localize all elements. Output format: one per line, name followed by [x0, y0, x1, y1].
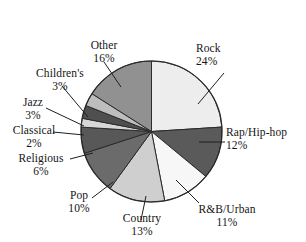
pie-slice-rock: [152, 61, 222, 132]
slice-label-religious: Religious 6%: [10, 152, 72, 178]
slice-label-country-value: 13%: [111, 225, 173, 238]
slice-label-rock: Rock 24%: [196, 42, 221, 68]
pie-slice-group: [81, 61, 222, 202]
slice-label-rnb-urban-name: R&B/Urban: [189, 203, 265, 216]
slice-label-rap-hip-hop-value: 12%: [226, 139, 287, 152]
slice-label-rap-hip-hop: Rap/Hip-hop 12%: [226, 126, 287, 152]
slice-label-pop-name: Pop: [58, 189, 100, 202]
slice-label-other-value: 16%: [78, 52, 130, 65]
slice-label-rock-name: Rock: [196, 42, 221, 55]
slice-label-rnb-urban-value: 11%: [189, 216, 265, 229]
slice-label-rock-value: 24%: [196, 55, 221, 68]
slice-label-religious-value: 6%: [10, 165, 72, 178]
slice-label-other-name: Other: [78, 39, 130, 52]
slice-label-jazz: Jazz 3%: [14, 96, 52, 122]
slice-label-childrens: Children's 3%: [24, 67, 96, 93]
slice-label-childrens-value: 3%: [24, 80, 96, 93]
slice-label-rap-hip-hop-name: Rap/Hip-hop: [226, 126, 287, 139]
slice-label-other: Other 16%: [78, 39, 130, 65]
slice-label-pop: Pop 10%: [58, 189, 100, 215]
slice-label-rnb-urban: R&B/Urban 11%: [189, 203, 265, 229]
slice-label-jazz-name: Jazz: [14, 96, 52, 109]
slice-label-classical-value: 2%: [5, 137, 63, 150]
slice-label-childrens-name: Children's: [24, 67, 96, 80]
slice-label-religious-name: Religious: [10, 152, 72, 165]
slice-label-pop-value: 10%: [58, 202, 100, 215]
slice-label-classical: Classical 2%: [5, 124, 63, 150]
pie-chart-figure: Rock 24% Rap/Hip-hop 12% R&B/Urban 11% C…: [0, 0, 306, 242]
slice-label-classical-name: Classical: [5, 124, 63, 137]
slice-label-jazz-value: 3%: [14, 109, 52, 122]
slice-label-country: Country 13%: [111, 212, 173, 238]
slice-label-country-name: Country: [111, 212, 173, 225]
